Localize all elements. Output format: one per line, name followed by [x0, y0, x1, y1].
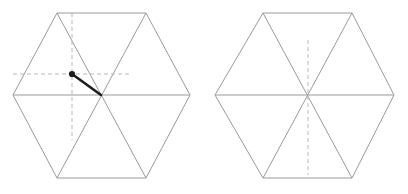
diagram-canvas: [0, 0, 408, 194]
hexagon-diagram-figure: [0, 0, 408, 194]
left-hexagon: [13, 13, 190, 178]
position-vector-endpoint-dot: [69, 71, 75, 77]
position-vector-arrow: [72, 74, 101, 95]
right-hexagon: [215, 13, 394, 178]
